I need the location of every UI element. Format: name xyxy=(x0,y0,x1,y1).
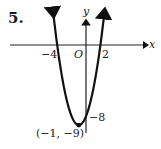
y-axis-label: y xyxy=(82,5,90,18)
y-tick-label-neg8: −8 xyxy=(89,111,105,124)
parabola-chart: y x O −4 2 −8 (−1, −9) xyxy=(0,0,161,149)
x-tick-label-neg4: −4 xyxy=(41,48,57,61)
vertex-label: (−1, −9) xyxy=(36,127,84,140)
graph-figure: 5. y x O −4 2 −8 (−1, −9) xyxy=(0,0,161,149)
x-tick-label-2: 2 xyxy=(102,48,109,61)
origin-label: O xyxy=(74,48,83,61)
x-axis-label: x xyxy=(149,38,156,51)
parabola-curve xyxy=(53,13,104,125)
